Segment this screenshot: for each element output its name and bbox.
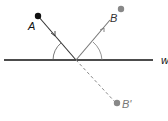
reflection-diagram: A B B' w (0, 0, 168, 121)
label-a: A (27, 20, 35, 32)
point-b-reflected (114, 100, 120, 106)
ray-b (76, 20, 110, 60)
label-b: B (110, 12, 117, 24)
angle-arc-left (53, 43, 61, 60)
point-a (35, 13, 41, 19)
label-w: w (161, 54, 168, 66)
point-b (118, 6, 124, 12)
angle-arc-right (93, 42, 102, 60)
dashed-ray-b-reflected (76, 60, 115, 102)
ray-a (38, 16, 76, 60)
label-b-reflected: B' (122, 98, 132, 110)
